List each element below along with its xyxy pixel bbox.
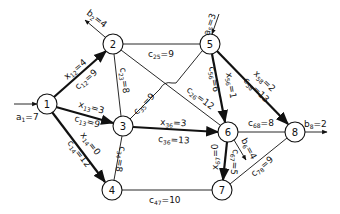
- node-label: 8: [292, 127, 298, 138]
- network-diagram: 1 2 3 4 5 6 7 8 a1=7 b2=4 a5=3 b6=4 b8=2…: [0, 0, 340, 214]
- label-x67: x67=0: [210, 143, 221, 170]
- node-8: 8: [285, 122, 305, 142]
- label-c36: c36=13: [158, 134, 190, 147]
- label-b8: b8=2: [304, 119, 327, 130]
- label-c56: c56=6: [206, 66, 221, 94]
- label-c23: c23=8: [117, 67, 131, 94]
- label-c68: c68=8: [248, 118, 274, 129]
- label-c47: c47=10: [149, 195, 181, 206]
- label-x56: x56=1: [223, 72, 238, 100]
- node-label: 4: [109, 185, 115, 196]
- node-7: 7: [212, 180, 232, 200]
- label-a5: a5=3: [201, 12, 218, 37]
- label-c67: c67=5: [228, 149, 241, 176]
- label-b2: b2=4: [84, 8, 109, 31]
- label-c25: c25=9: [148, 49, 174, 60]
- edge-7-8: [230, 138, 287, 184]
- node-label: 6: [225, 127, 231, 138]
- node-6: 6: [218, 122, 238, 142]
- label-a1: a1=7: [16, 112, 39, 123]
- label-c34: c34=8: [113, 145, 128, 173]
- edge-2-3: [114, 54, 121, 116]
- edge-6-7: [223, 142, 227, 180]
- node-4: 4: [102, 180, 122, 200]
- node-1: 1: [37, 94, 57, 114]
- node-label: 3: [120, 121, 126, 132]
- node-3: 3: [113, 116, 133, 136]
- node-label: 2: [110, 39, 116, 50]
- node-2: 2: [103, 34, 123, 54]
- node-label: 1: [44, 99, 50, 110]
- node-label: 5: [207, 39, 213, 50]
- label-x36: x36=3: [160, 117, 187, 129]
- node-label: 7: [219, 185, 225, 196]
